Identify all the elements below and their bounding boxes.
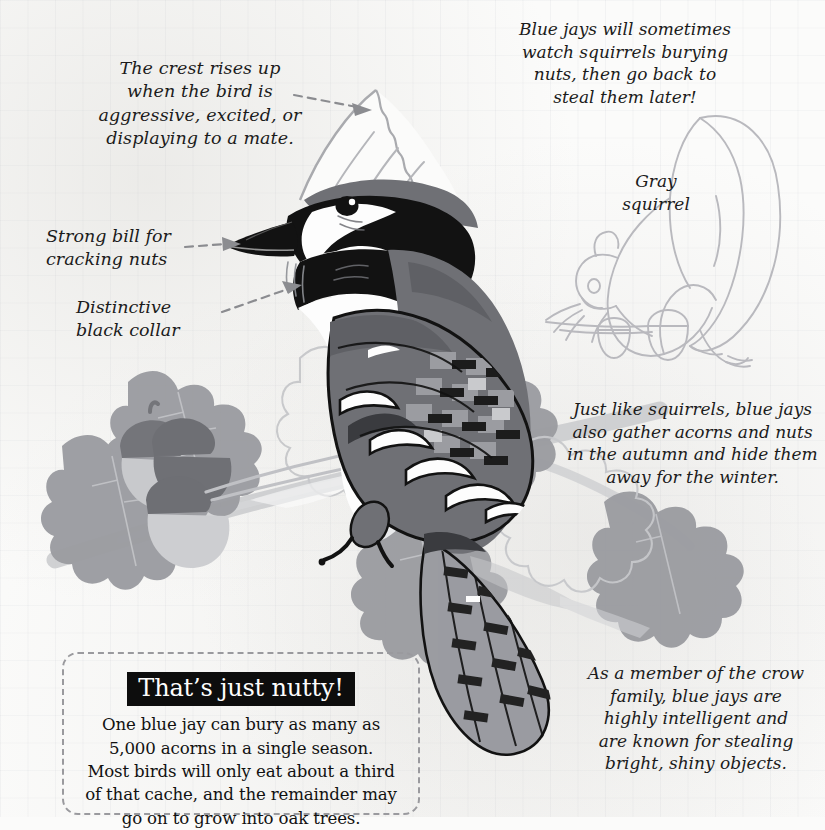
note-crow-family-text: As a member of the crow family, blue jay… — [568, 662, 824, 775]
fact-box-banner: That’s just nutty! — [127, 672, 354, 706]
annotation-collar-text: Distinctive black collar — [76, 296, 261, 343]
note-squirrel-watching-text: Blue jays will sometimes watch squirrels… — [500, 18, 750, 108]
note-acorn-caching-text: Just like squirrels, blue jays also gath… — [560, 398, 825, 488]
annotation-crest-text: The crest rises up when the bird is aggr… — [60, 57, 340, 150]
annotation-bill-text: Strong bill for cracking nuts — [46, 225, 261, 272]
fact-box-body: One blue jay can bury as many as 5,000 a… — [78, 713, 404, 830]
fact-box: That’s just nutty! One blue jay can bury… — [62, 652, 420, 815]
label-gray-squirrel: Gray squirrel — [586, 170, 726, 215]
